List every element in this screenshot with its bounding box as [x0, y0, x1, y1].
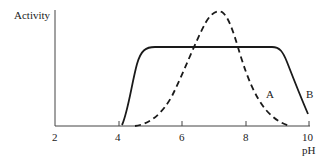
x-axis-label: pH: [302, 145, 315, 156]
curve-b-label: B: [306, 89, 313, 100]
x-tick-label-8: 8: [243, 132, 249, 143]
y-axis-label: Activity: [14, 10, 50, 21]
x-tick-label-4: 4: [115, 132, 121, 143]
x-tick-label-6: 6: [179, 132, 185, 143]
curve-b: [122, 47, 308, 125]
x-tick-label-2: 2: [52, 132, 58, 143]
activity-ph-chart: [0, 0, 332, 158]
curve-a: [135, 11, 290, 126]
x-tick-label-10: 10: [302, 132, 313, 143]
curve-a-label: A: [266, 89, 274, 100]
